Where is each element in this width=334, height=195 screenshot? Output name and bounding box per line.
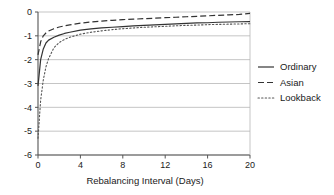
legend-label-asian: Asian <box>280 77 304 88</box>
y-tick-label: -5 <box>24 126 32 136</box>
y-tick-label: -3 <box>24 79 32 89</box>
y-tick-label: -4 <box>24 103 32 113</box>
x-tick-label: 0 <box>35 160 40 170</box>
y-tick-label: -2 <box>24 55 32 65</box>
x-axis-title: Rebalancing Interval (Days) <box>86 175 203 186</box>
x-tick-label: 16 <box>203 160 213 170</box>
series-line-ordinary <box>38 22 250 86</box>
series-line-asian <box>38 13 250 54</box>
x-tick-label: 20 <box>245 160 255 170</box>
x-tick-label: 12 <box>160 160 170 170</box>
chart-legend: OrdinaryAsianLookback <box>258 61 321 103</box>
y-tick-label: -6 <box>24 150 32 160</box>
y-tick-label: 0 <box>27 7 32 17</box>
grid-lines <box>38 12 250 155</box>
x-tick-label: 8 <box>120 160 125 170</box>
y-tick-label: -1 <box>24 31 32 41</box>
x-axis-tick-labels: 048121620 <box>35 160 255 170</box>
data-series <box>38 13 250 138</box>
y-axis-tick-labels: 0-1-2-3-4-5-6 <box>24 7 32 160</box>
legend-label-ordinary: Ordinary <box>280 61 317 72</box>
x-tick-label: 4 <box>78 160 83 170</box>
line-chart: 0-1-2-3-4-5-6 048121620 Rebalancing Inte… <box>0 0 334 195</box>
chart-figure: 0-1-2-3-4-5-6 048121620 Rebalancing Inte… <box>0 0 334 195</box>
series-line-lookback <box>38 24 250 139</box>
legend-label-lookback: Lookback <box>280 92 321 103</box>
